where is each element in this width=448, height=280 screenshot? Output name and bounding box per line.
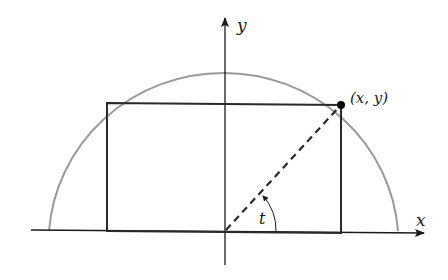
- diagram-svg: y x (x, y) t: [0, 0, 448, 280]
- point-label: (x, y): [350, 89, 388, 107]
- semicircle-arc: [49, 73, 398, 231]
- angle-label: t: [259, 209, 266, 228]
- point-on-arc: [337, 101, 345, 109]
- x-axis-label: x: [416, 210, 426, 230]
- y-axis-label: y: [236, 15, 247, 35]
- dashed-radius: [226, 106, 340, 230]
- inscribed-rectangle: [107, 103, 341, 233]
- diagram-canvas: y x (x, y) t: [0, 0, 448, 280]
